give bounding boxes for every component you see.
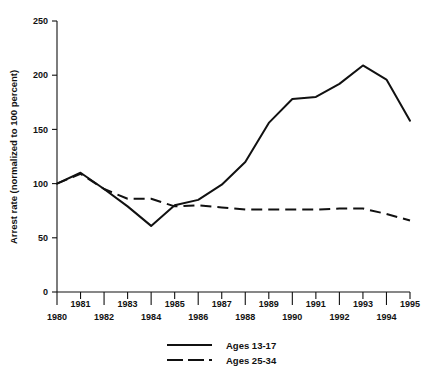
y-tick-label: 150	[33, 125, 48, 135]
x-tick-label: 1994	[376, 312, 396, 322]
x-tick-label: 1992	[329, 312, 349, 322]
y-tick-label: 50	[38, 233, 48, 243]
y-tick-label: 0	[43, 287, 48, 297]
x-tick-label: 1990	[282, 312, 302, 322]
x-tick-label: 1983	[118, 299, 138, 309]
x-tick-label: 1995	[400, 299, 420, 309]
x-tick-label: 1986	[188, 312, 208, 322]
legend-label-ages-25-34: Ages 25-34	[226, 355, 277, 366]
x-tick-label: 1984	[141, 312, 161, 322]
x-tick-label: 1982	[94, 312, 114, 322]
arrest-rate-line-chart: 050100150200250 Arrest rate (normalized …	[0, 0, 428, 377]
y-axis-title: Arrest rate (normalized to 100 percent)	[8, 70, 19, 244]
x-tick-label: 1991	[306, 299, 326, 309]
chart-figure: 050100150200250 Arrest rate (normalized …	[0, 0, 428, 377]
x-tick-label: 1985	[165, 299, 185, 309]
x-tick-label: 1988	[235, 312, 255, 322]
y-tick-label: 250	[33, 16, 48, 26]
x-tick-label: 1987	[212, 299, 232, 309]
legend-label-ages-13-17: Ages 13-17	[226, 340, 276, 351]
x-tick-label: 1981	[71, 299, 91, 309]
x-tick-label: 1980	[47, 312, 67, 322]
x-tick-label: 1989	[259, 299, 279, 309]
y-tick-label: 100	[33, 179, 48, 189]
y-tick-label: 200	[33, 70, 48, 80]
x-tick-label: 1993	[353, 299, 373, 309]
